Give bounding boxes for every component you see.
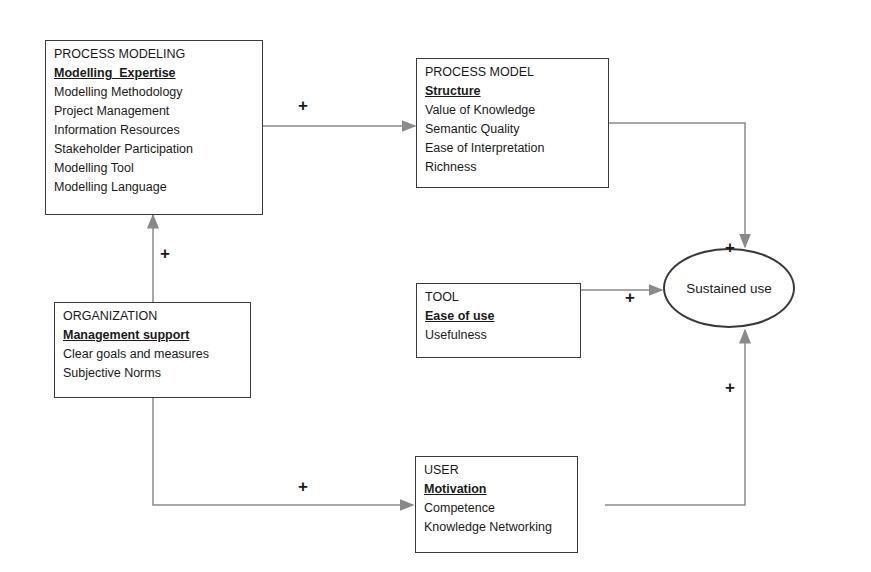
node-title: TOOL (425, 288, 572, 307)
edge-process-model-to-outcome (608, 123, 745, 247)
node-item: Stakeholder Participation (54, 140, 254, 159)
node-item: Project Management (54, 102, 254, 121)
edge-sign-process-model-to-outcome: + (725, 238, 735, 258)
node-title: PROCESS MODELING (54, 45, 254, 64)
edge-user-to-outcome (605, 330, 745, 505)
edge-sign-tool-to-outcome: + (625, 288, 635, 308)
node-item: Knowledge Networking (424, 518, 569, 537)
node-process-modeling: PROCESS MODELING Modelling Expertise Mod… (45, 40, 263, 215)
node-title: PROCESS MODEL (425, 63, 600, 82)
node-item: Information Resources (54, 121, 254, 140)
node-tool: TOOL Ease of use Usefulness (416, 283, 581, 358)
node-key-construct: Modelling Expertise (54, 64, 254, 83)
node-key-construct: Management support (63, 326, 242, 345)
edge-organization-to-user (153, 397, 413, 505)
node-item: Modelling Tool (54, 159, 254, 178)
node-label: Sustained use (686, 281, 772, 296)
node-item: Value of Knowledge (425, 101, 600, 120)
node-organization: ORGANIZATION Management support Clear go… (54, 302, 251, 398)
node-item: Competence (424, 499, 569, 518)
node-item: Clear goals and measures (63, 345, 242, 364)
node-process-model: PROCESS MODEL Structure Value of Knowled… (416, 58, 609, 188)
node-key-construct: Motivation (424, 480, 569, 499)
node-title: USER (424, 461, 569, 480)
node-user: USER Motivation Competence Knowledge Net… (415, 456, 578, 553)
edge-sign-user-to-outcome: + (725, 378, 735, 398)
edge-sign-organization-to-process-modeling: + (160, 244, 170, 264)
node-item: Subjective Norms (63, 364, 242, 383)
node-item: Usefulness (425, 326, 572, 345)
node-item: Modelling Language (54, 178, 254, 197)
node-title: ORGANIZATION (63, 307, 242, 326)
node-sustained-use: Sustained use (663, 248, 795, 328)
node-key-construct: Structure (425, 82, 600, 101)
node-item: Semantic Quality (425, 120, 600, 139)
edge-sign-organization-to-user: + (298, 477, 308, 497)
edge-sign-process-modeling-to-process-model: + (298, 96, 308, 116)
node-item: Ease of Interpretation (425, 139, 600, 158)
node-item: Modelling Methodology (54, 83, 254, 102)
node-key-construct: Ease of use (425, 307, 572, 326)
node-item: Richness (425, 158, 600, 177)
